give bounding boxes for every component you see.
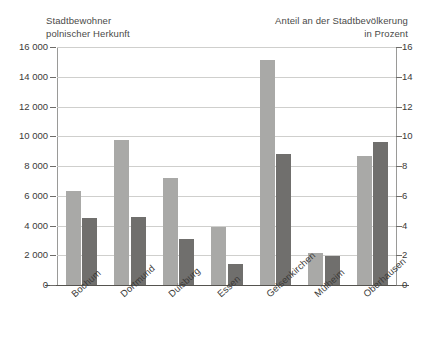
left-tick-mark [50,196,56,197]
right-axis-ticks: 0246810121416 [402,0,444,341]
right-tick-label: 0 [402,280,407,290]
left-tick-label: 0 [43,280,48,290]
right-tick-mark [396,226,402,227]
left-tick-mark [50,285,56,286]
left-tick-mark [50,77,56,78]
gridline [57,77,397,78]
left-tick-label: 16 000 [19,42,48,52]
gridline [57,226,397,227]
gridline [57,47,397,48]
bar-percent-oberhausen [373,142,388,285]
gridline [57,107,397,108]
right-tick-label: 16 [402,42,413,52]
bar-absolute-bochum [66,191,81,285]
right-tick-label: 14 [402,72,413,82]
left-tick-mark [50,255,56,256]
right-tick-mark [396,136,402,137]
left-axis-ticks: 02 0004 0006 0008 00010 00012 00014 0001… [0,0,48,341]
right-tick-mark [396,107,402,108]
bar-absolute-essen [211,227,226,285]
left-tick-label: 14 000 [19,72,48,82]
left-tick-label: 10 000 [19,131,48,141]
gridline [57,196,397,197]
right-tick-label: 10 [402,131,413,141]
left-tick-mark [50,166,56,167]
gridline [57,136,397,137]
left-tick-label: 8 000 [24,161,48,171]
right-tick-mark [396,47,402,48]
chart-container: Stadtbewohner polnischer Herkunft Anteil… [0,0,444,341]
right-tick-label: 4 [402,221,407,231]
left-axis-title: Stadtbewohner polnischer Herkunft [46,15,130,40]
right-tick-mark [396,196,402,197]
right-tick-mark [396,166,402,167]
bar-absolute-dortmund [114,140,129,285]
plot-area [57,47,397,285]
right-tick-mark [396,285,402,286]
left-tick-mark [50,107,56,108]
bar-absolute-oberhausen [357,156,372,285]
left-tick-label: 4 000 [24,221,48,231]
gridline [57,255,397,256]
left-tick-mark [50,136,56,137]
bar-percent-gelsenkirchen [276,154,291,285]
bar-absolute-duisburg [163,178,178,285]
gridline [57,166,397,167]
bar-absolute-gelsenkirchen [260,60,275,285]
right-tick-label: 6 [402,191,407,201]
right-axis-title: Anteil an der Stadtbevölkerung in Prozen… [275,15,408,40]
left-tick-label: 12 000 [19,102,48,112]
right-tick-label: 8 [402,161,407,171]
left-tick-label: 2 000 [24,250,48,260]
left-tick-label: 6 000 [24,191,48,201]
right-tick-mark [396,77,402,78]
left-tick-mark [50,226,56,227]
right-tick-label: 12 [402,102,413,112]
left-tick-mark [50,47,56,48]
